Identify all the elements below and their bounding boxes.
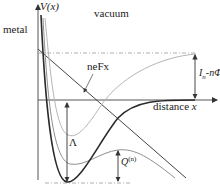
x-axis-word: distance	[153, 100, 189, 112]
q-label: Q(n)	[121, 156, 136, 167]
ionization-gap-label: In-nΦ	[199, 68, 220, 81]
nefx-pointer	[84, 74, 93, 92]
y-axis-label: V(x)	[40, 1, 59, 12]
vacuum-label: vacuum	[94, 8, 129, 19]
q-superscript: (n)	[128, 155, 136, 163]
upper-potential-curve	[45, 18, 196, 136]
lambda-label: Λ	[69, 137, 77, 148]
x-axis-symbol: x	[192, 100, 197, 112]
field-line-label: neFx	[87, 61, 109, 72]
ionization-rest: -nΦ	[206, 67, 220, 78]
metal-label: metal	[3, 24, 27, 35]
x-axis-label: distance x	[153, 101, 197, 112]
field-modified-curve	[43, 18, 175, 178]
potential-energy-diagram: metal vacuum V(x) neFx In-nΦ distance x …	[0, 0, 220, 190]
diagram-canvas	[0, 0, 220, 190]
field-line	[38, 49, 186, 178]
